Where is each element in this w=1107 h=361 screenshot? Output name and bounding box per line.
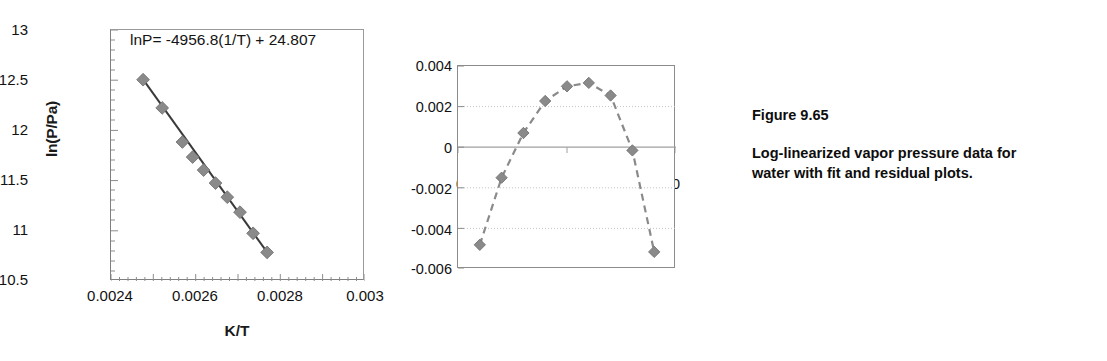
fit-plot-ytick-12: 12 [0, 122, 28, 137]
fit-plot-canvas [111, 30, 365, 281]
fit-plot-ytick-11: 11 [0, 222, 28, 237]
fit-plot: 13 12.5 12 11.5 11 10.5 0.0024 0.0026 0.… [0, 0, 400, 361]
residual-plot-ytick-0: 0 [384, 141, 452, 156]
fit-plot-area [110, 29, 364, 280]
fit-plot-ytick-12-5: 12.5 [0, 72, 28, 87]
fit-plot-xtick-0p0024: 0.0024 [70, 288, 150, 303]
fit-plot-xtick-0p0028: 0.0028 [240, 288, 320, 303]
residual-plot-x-ticks [458, 147, 676, 153]
residual-plot: 0.004 0.002 0 -0.002 -0.004 -0.006 0 5 1… [390, 0, 690, 361]
caption-figure-number: Figure 9.65 [752, 108, 1092, 124]
fit-plot-x-ticks [111, 274, 365, 281]
fit-plot-x-axis-label: K/T [110, 322, 364, 340]
caption-text: Log-linearized vapor pressure data for w… [752, 143, 1052, 183]
fit-plot-ytick-13: 13 [0, 22, 28, 37]
fit-plot-ytick-10-5: 10.5 [0, 272, 28, 287]
residual-plot-canvas [458, 66, 676, 269]
fit-plot-ytick-11-5: 11.5 [0, 172, 28, 187]
residual-plot-series-line [480, 83, 654, 252]
fit-plot-y-axis-label: ln(P/Pa) [43, 69, 61, 189]
fit-plot-markers [137, 73, 274, 258]
residual-plot-y-ticks [458, 66, 464, 269]
fit-plot-xtick-0p0026: 0.0026 [155, 288, 235, 303]
residual-plot-area [457, 65, 675, 268]
residual-plot-ytick-0p004: 0.004 [384, 59, 452, 74]
residual-plot-ytick-m0p004: -0.004 [384, 223, 452, 238]
residual-plot-ytick-m0p006: -0.006 [384, 262, 452, 277]
residual-plot-markers [474, 77, 660, 257]
fit-plot-equation-annotation: lnP= -4956.8(1/T) + 24.807 [130, 31, 316, 49]
fit-plot-y-ticks [111, 30, 118, 271]
residual-plot-ytick-0p002: 0.002 [384, 100, 452, 115]
figure-caption: Figure 9.65 Log-linearized vapor pressur… [752, 108, 1092, 183]
figure-container: 13 12.5 12 11.5 11 10.5 0.0024 0.0026 0.… [0, 0, 1107, 361]
